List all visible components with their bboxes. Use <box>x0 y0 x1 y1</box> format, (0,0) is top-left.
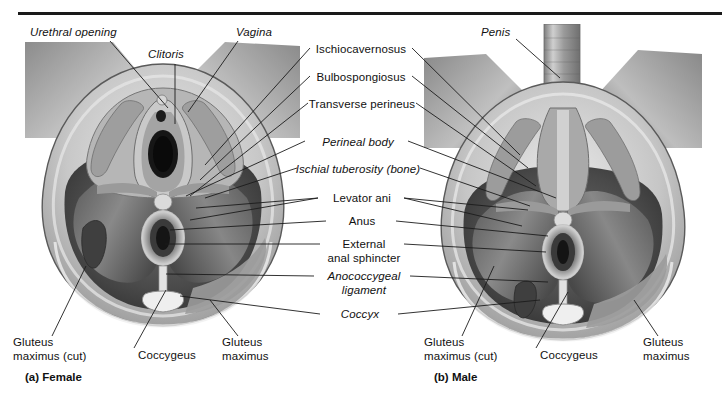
caption-female: (a) Female <box>25 371 82 383</box>
label-gluteus-maximus-female: Gluteus maximus <box>222 336 269 363</box>
male-art-svg <box>424 24 702 342</box>
label-anus: Anus <box>326 215 398 229</box>
label-gluteus-maximus-cut-male: Gluteus maximus (cut) <box>424 336 498 363</box>
male-perineum-illustration <box>424 24 702 342</box>
label-ischial-tuberosity: Ischial tuberosity (bone) <box>294 163 422 177</box>
female-art-svg <box>25 42 300 342</box>
label-gluteus-maximus-male: Gluteus maximus <box>643 336 690 363</box>
label-perineal-body: Perineal body <box>306 136 410 150</box>
label-clitoris: Clitoris <box>148 48 184 62</box>
label-gluteus-maximus-cut-female: Gluteus maximus (cut) <box>13 336 87 363</box>
label-anococcygeal-ligament: Anococcygeal ligament <box>310 270 418 297</box>
label-levator-ani: Levator ani <box>318 192 406 206</box>
label-vagina: Vagina <box>236 26 272 40</box>
label-transverse-perineus: Transverse perineus <box>307 98 417 112</box>
label-coccygeus-female: Coccygeus <box>138 349 196 363</box>
label-ischiocavernosus: Ischiocavernosus <box>311 43 411 57</box>
caption-male: (b) Male <box>434 371 477 383</box>
label-external-anal-sphincter: External anal sphincter <box>314 238 414 265</box>
label-coccygeus-male: Coccygeus <box>540 349 598 363</box>
label-bulbospongiosus: Bulbospongiosus <box>311 71 411 85</box>
anatomy-figure: Urethral opening Clitoris Vagina Penis I… <box>0 0 722 402</box>
female-perineum-illustration <box>25 42 300 342</box>
label-urethral-opening: Urethral opening <box>30 26 117 40</box>
label-penis: Penis <box>481 26 510 40</box>
top-divider-rule <box>18 12 722 15</box>
label-coccyx: Coccyx <box>322 308 398 322</box>
